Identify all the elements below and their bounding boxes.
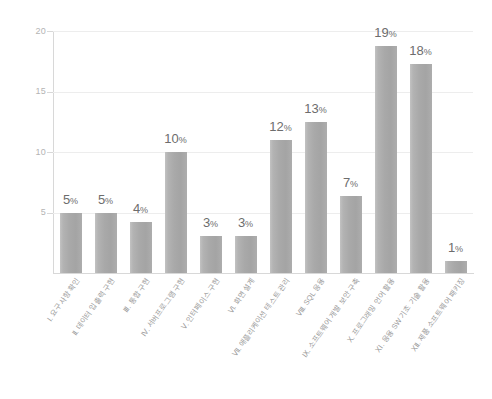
bar-group: 3%: [228, 31, 263, 273]
percent-sign: %: [179, 135, 187, 145]
y-tick-label-10: 10: [0, 148, 46, 157]
bar-group: 10%: [158, 31, 193, 273]
percent-sign: %: [319, 105, 327, 115]
bar[interactable]: [60, 213, 82, 274]
percent-sign: %: [140, 205, 148, 215]
bar-chart: 5101520 5%5%4%10%3%3%12%13%7%19%18%1% Ⅰ.…: [0, 0, 492, 399]
percent-sign: %: [455, 244, 463, 254]
percent-sign: %: [245, 219, 253, 229]
bar-value-label: 1%: [426, 241, 486, 256]
percent-sign: %: [350, 179, 358, 189]
bar[interactable]: [340, 196, 362, 273]
bar-group: 19%: [368, 31, 403, 273]
x-axis-line: [53, 273, 474, 274]
bar[interactable]: [235, 236, 257, 274]
bar[interactable]: [165, 152, 187, 273]
bar-group: 3%: [193, 31, 228, 273]
percent-sign: %: [389, 29, 397, 39]
bar-group: 4%: [123, 31, 158, 273]
bar[interactable]: [95, 213, 117, 274]
y-tick-label-20: 20: [0, 27, 46, 36]
bar-group: 1%: [438, 31, 473, 273]
plot-area: 5%5%4%10%3%3%12%13%7%19%18%1%: [53, 31, 473, 273]
bar-group: 13%: [298, 31, 333, 273]
bar-group: 5%: [88, 31, 123, 273]
bar-group: 12%: [263, 31, 298, 273]
percent-sign: %: [284, 123, 292, 133]
bar[interactable]: [130, 222, 152, 273]
bar[interactable]: [305, 122, 327, 273]
bar-group: 5%: [53, 31, 88, 273]
bar-group: 18%: [403, 31, 438, 273]
x-axis-label: Ⅱ. 데이터 입출력 구현: [0, 277, 116, 399]
bar[interactable]: [270, 140, 292, 273]
y-tick-label-15: 15: [0, 87, 46, 96]
bar[interactable]: [200, 236, 222, 274]
y-tick-label-5: 5: [0, 208, 46, 217]
bar-group: 7%: [333, 31, 368, 273]
bar[interactable]: [445, 261, 467, 273]
bar[interactable]: [375, 46, 397, 273]
percent-sign: %: [424, 47, 432, 57]
